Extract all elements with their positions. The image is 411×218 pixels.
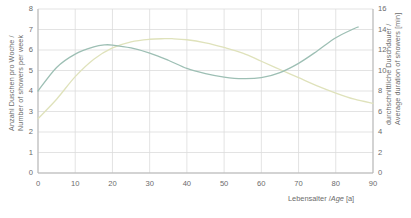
y-axis-right-tick-12: 12 (378, 45, 392, 54)
plot-area (0, 0, 411, 218)
y-axis-left-tick-1: 1 (21, 148, 33, 157)
x-axis-tick-20: 20 (103, 179, 121, 188)
y-axis-left-tick-2: 2 (21, 127, 33, 136)
x-axis-tick-30: 30 (141, 179, 159, 188)
y-axis-left-tick-4: 4 (21, 86, 33, 95)
y-axis-left-tick-3: 3 (21, 107, 33, 116)
y-axis-right-tick-16: 16 (378, 4, 392, 13)
x-axis-tick-70: 70 (290, 179, 308, 188)
x-axis-tick-60: 60 (252, 179, 270, 188)
series-line-number-of-showers (38, 27, 358, 91)
y-axis-left-tick-6: 6 (21, 45, 33, 54)
series-line-average-duration (38, 39, 373, 119)
y-axis-right-tick-2: 2 (378, 148, 392, 157)
x-axis-tick-10: 10 (66, 179, 84, 188)
chart-container: Anzahl Duschen pro Woche / Number of sho… (0, 0, 411, 218)
y-axis-left-tick-8: 8 (21, 4, 33, 13)
y-axis-right-tick-4: 4 (378, 127, 392, 136)
x-axis-tick-80: 80 (327, 179, 345, 188)
y-axis-left-tick-0: 0 (21, 168, 33, 177)
x-axis-tick-90: 90 (364, 179, 382, 188)
grid-lines (38, 9, 373, 173)
y-axis-right-tick-6: 6 (378, 107, 392, 116)
x-axis-tick-0: 0 (29, 179, 47, 188)
y-axis-right-tick-8: 8 (378, 86, 392, 95)
y-axis-left-tick-7: 7 (21, 25, 33, 34)
x-axis-tick-40: 40 (178, 179, 196, 188)
y-axis-right-tick-14: 14 (378, 25, 392, 34)
y-axis-right-tick-10: 10 (378, 66, 392, 75)
y-axis-right-tick-0: 0 (378, 168, 392, 177)
y-axis-left-tick-5: 5 (21, 66, 33, 75)
x-axis-tick-50: 50 (215, 179, 233, 188)
